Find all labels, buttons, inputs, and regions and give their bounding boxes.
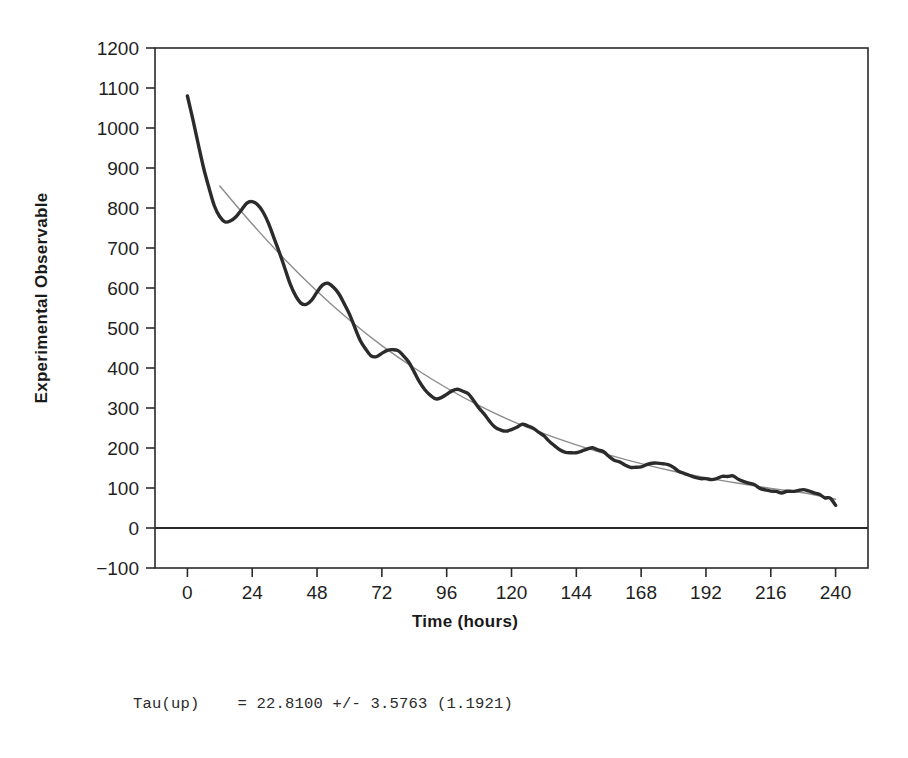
chart-canvas: −100010020030040050060070080090010001100…	[0, 0, 908, 640]
y-tick-label: 0	[128, 518, 139, 539]
x-tick-label: 96	[436, 582, 457, 603]
y-tick-label: 500	[107, 318, 139, 339]
fit-line	[220, 186, 836, 499]
y-tick-label: 800	[107, 198, 139, 219]
y-tick-label: 1200	[97, 38, 139, 59]
y-tick-label: 600	[107, 278, 139, 299]
x-tick-label: 48	[306, 582, 327, 603]
x-tick-label: 24	[242, 582, 264, 603]
caption-line-tau-up: Tau(up) = 22.8100 +/- 3.5763 (1.1921)	[133, 694, 513, 715]
data-line	[187, 96, 835, 505]
figure-container: −100010020030040050060070080090010001100…	[0, 0, 908, 758]
x-tick-label: 216	[755, 582, 787, 603]
plot-area: −100010020030040050060070080090010001100…	[0, 0, 908, 640]
x-tick-label: 192	[690, 582, 722, 603]
fit-parameters-caption: Tau(up) = 22.8100 +/- 3.5763 (1.1921) Ta…	[133, 652, 513, 758]
y-tick-label: 900	[107, 158, 139, 179]
y-tick-label: 1000	[97, 118, 139, 139]
y-axis-title: Experimental Observable	[32, 168, 52, 428]
y-tick-label: 300	[107, 398, 139, 419]
x-axis-title: Time (hours)	[330, 612, 600, 632]
x-tick-label: 144	[560, 582, 592, 603]
y-tick-label: 100	[107, 478, 139, 499]
x-tick-label: 240	[820, 582, 852, 603]
x-tick-label: 120	[496, 582, 528, 603]
y-tick-label: 1100	[98, 78, 139, 99]
x-tick-label: 168	[625, 582, 657, 603]
x-tick-label: 72	[371, 582, 392, 603]
x-tick-label: 0	[182, 582, 193, 603]
y-tick-label: 400	[107, 358, 139, 379]
y-tick-label: 700	[107, 238, 139, 259]
y-tick-label: 200	[107, 438, 139, 459]
y-tick-label: −100	[96, 558, 139, 579]
